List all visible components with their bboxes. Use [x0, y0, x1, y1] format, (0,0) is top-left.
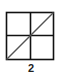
figure-label: 2	[0, 62, 59, 74]
square-diagram: 2	[0, 0, 59, 75]
